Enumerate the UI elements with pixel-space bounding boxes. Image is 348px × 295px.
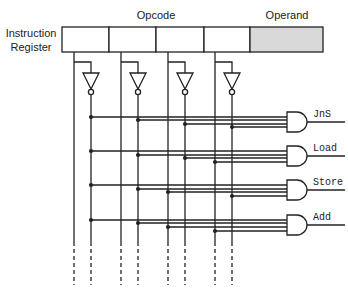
- instruction-label: JnS: [313, 109, 331, 120]
- junction-dot: [213, 160, 217, 164]
- not-gate-icon: [224, 73, 240, 89]
- instruction-register: [62, 27, 323, 52]
- junction-dot: [230, 125, 234, 129]
- inversion-bubble-icon: [229, 89, 234, 94]
- decoder-row-load: Load: [89, 143, 345, 166]
- and-gate-icon: [287, 215, 307, 235]
- junction-dot: [89, 218, 93, 222]
- inversion-bubble-icon: [182, 89, 187, 94]
- junction-dot: [136, 153, 140, 157]
- junction-dot: [183, 122, 187, 126]
- junction-dot: [136, 221, 140, 225]
- opcode-bit-cell: [156, 27, 204, 52]
- instruction-decoder-diagram: Instruction Register Opcode Operand JnSL…: [0, 0, 348, 295]
- decoder-row-store: Store: [89, 177, 345, 200]
- junction-dot: [89, 115, 93, 119]
- instruction-label: Add: [313, 212, 331, 223]
- register-title-line-2: Register: [11, 41, 52, 53]
- opcode-label: Opcode: [137, 9, 176, 21]
- register-title-line-1: Instruction: [6, 27, 57, 39]
- opcode-bit-cell: [204, 27, 250, 52]
- decoder-row-jns: JnS: [89, 109, 345, 132]
- and-gate-icon: [287, 146, 307, 166]
- not-gate-icon: [177, 73, 193, 89]
- junction-dot: [166, 225, 170, 229]
- instruction-label: Load: [313, 143, 337, 154]
- decoder-rows: JnSLoadStoreAdd: [89, 109, 345, 235]
- junction-dot: [89, 149, 93, 153]
- junction-dot: [136, 187, 140, 191]
- instruction-label: Store: [313, 177, 343, 188]
- not-gate-icon: [130, 73, 146, 89]
- and-gate-icon: [287, 180, 307, 200]
- not-gate-icon: [83, 73, 99, 89]
- junction-dot: [183, 156, 187, 160]
- junction-dot: [230, 194, 234, 198]
- junction-dot: [213, 229, 217, 233]
- junction-dot: [136, 118, 140, 122]
- operand-label: Operand: [266, 9, 309, 21]
- junction-dot: [89, 183, 93, 187]
- opcode-bit-cell: [109, 27, 156, 52]
- junction-dot: [166, 190, 170, 194]
- and-gate-icon: [287, 112, 307, 132]
- opcode-bit-cell: [62, 27, 109, 52]
- inversion-bubble-icon: [88, 89, 93, 94]
- bit-lines: [74, 52, 240, 285]
- inversion-bubble-icon: [135, 89, 140, 94]
- decoder-row-add: Add: [89, 212, 345, 235]
- operand-field: [250, 27, 323, 52]
